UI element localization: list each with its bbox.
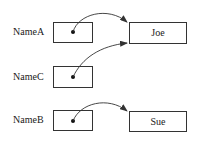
pointer-namec-to-joe: [71, 43, 127, 79]
pointer-nameb-to-sue: [71, 103, 127, 123]
pointer-namea-to-joe: [71, 13, 127, 34]
pointer-arrows: [0, 0, 199, 142]
